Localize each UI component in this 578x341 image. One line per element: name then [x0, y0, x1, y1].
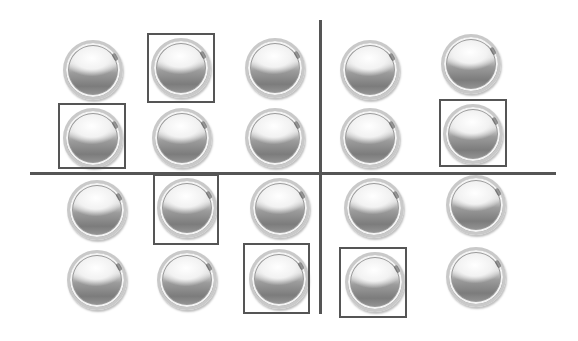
sphere-icon	[67, 180, 127, 240]
sphere-icon	[441, 34, 501, 94]
selection-box	[439, 99, 507, 167]
sphere-icon	[245, 108, 305, 168]
selection-box	[153, 174, 219, 245]
sphere-icon	[157, 250, 217, 310]
sphere-icon	[344, 178, 404, 238]
sphere-icon	[152, 108, 212, 168]
vertical-divider	[319, 20, 322, 314]
sphere-icon	[63, 40, 123, 100]
selection-box	[339, 247, 407, 318]
sphere-grid-figure	[0, 0, 578, 341]
sphere-icon	[245, 38, 305, 98]
sphere-icon	[250, 178, 310, 238]
sphere-icon	[67, 250, 127, 310]
sphere-icon	[340, 108, 400, 168]
selection-box	[58, 103, 126, 169]
selection-box	[147, 33, 215, 103]
sphere-icon	[340, 40, 400, 100]
sphere-icon	[446, 247, 506, 307]
sphere-icon	[446, 175, 506, 235]
selection-box	[243, 243, 310, 314]
